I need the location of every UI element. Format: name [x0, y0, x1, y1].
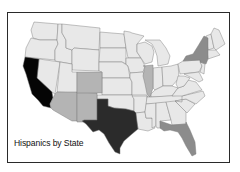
state-southern-new-england — [207, 50, 220, 59]
state-north-dakota — [100, 32, 126, 48]
state-nebraska — [99, 62, 130, 78]
state-arizona — [50, 92, 77, 121]
state-montana — [62, 24, 100, 50]
state-kansas — [102, 78, 132, 95]
state-colorado — [77, 72, 102, 93]
state-new-york — [183, 36, 208, 64]
state-wyoming — [72, 48, 99, 71]
state-arkansas — [132, 96, 147, 113]
state-south-dakota — [99, 48, 126, 64]
state-new-mexico — [77, 92, 97, 122]
state-florida — [160, 121, 196, 156]
state-oregon — [25, 38, 58, 60]
state-washington — [31, 22, 58, 40]
map-title: Hispanics by State — [14, 138, 83, 148]
